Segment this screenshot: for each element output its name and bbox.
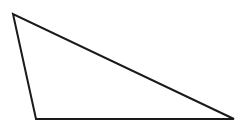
triangle-shape bbox=[13, 14, 234, 119]
triangle-diagram bbox=[0, 0, 246, 129]
